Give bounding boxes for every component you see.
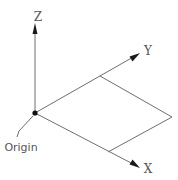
origin-dot — [32, 110, 37, 115]
x-axis: X — [35, 113, 153, 176]
x-arrow-icon — [130, 160, 141, 169]
z-axis-label: Z — [34, 10, 42, 24]
y-axis: Y — [35, 44, 153, 113]
y-axis-line — [35, 56, 135, 113]
z-axis: Z — [33, 10, 43, 113]
x-axis-line — [35, 113, 135, 165]
y-axis-label: Y — [143, 44, 153, 58]
plane-edge-top — [100, 76, 172, 117]
z-arrow-icon — [33, 23, 38, 34]
origin-label: Origin — [4, 141, 37, 154]
origin-marker: Origin — [4, 110, 37, 154]
plane-edge-bottom — [108, 117, 172, 152]
origin-leader-line — [17, 116, 33, 137]
y-arrow-icon — [130, 53, 141, 62]
x-axis-label: X — [144, 162, 153, 176]
coordinate-axes-diagram: Z Y X Origin — [0, 0, 178, 180]
xy-plane — [100, 76, 172, 152]
